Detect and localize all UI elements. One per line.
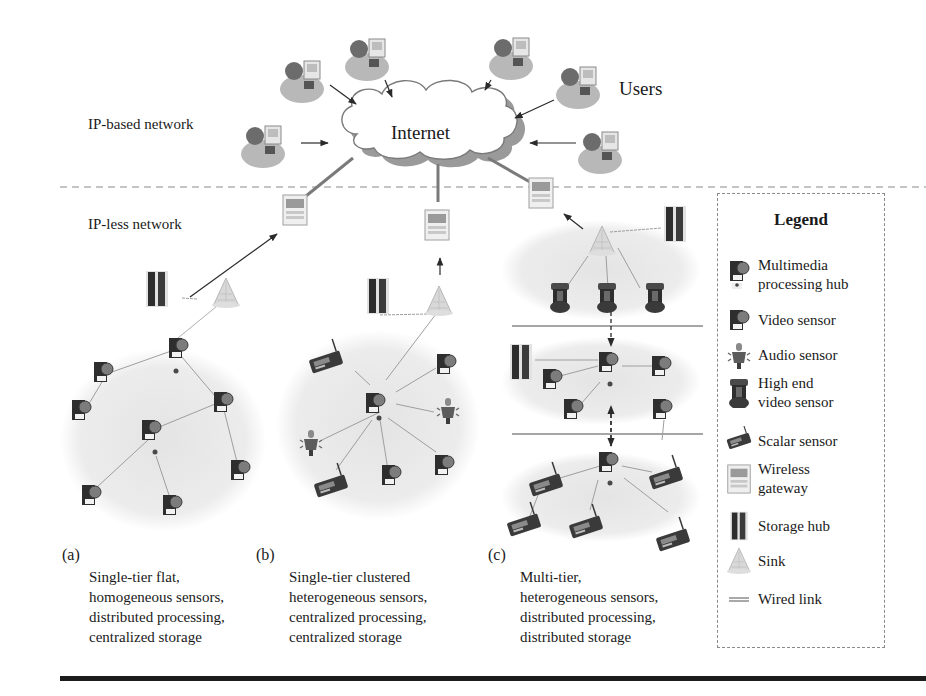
legend-item-wireless-gateway: Wireless gateway bbox=[726, 460, 882, 498]
storage-hub-icon bbox=[726, 511, 752, 541]
user-icon bbox=[489, 38, 533, 80]
wireless-gateway-b bbox=[425, 210, 449, 240]
ip-based-network-label: IP-based network bbox=[88, 116, 193, 133]
scalar-sensor-icon bbox=[726, 426, 752, 456]
legend-label: Audio sensor bbox=[758, 346, 838, 365]
user-icon bbox=[280, 61, 324, 103]
user-icon bbox=[556, 67, 600, 109]
legend-item-wired-link: Wired link bbox=[726, 584, 882, 614]
legend-item-high-end-video-sensor: High end video sensor bbox=[726, 374, 882, 412]
caption-a: Single-tier flat, homogeneous sensors, d… bbox=[89, 567, 225, 647]
wired-link-icon bbox=[726, 584, 752, 614]
legend-item-audio-sensor: Audio sensor bbox=[726, 340, 882, 370]
user-icon bbox=[345, 39, 389, 81]
user-icon bbox=[241, 126, 285, 168]
high-end-video-sensor-icon bbox=[726, 378, 752, 408]
legend-label: Storage hub bbox=[758, 517, 830, 536]
legend-item-storage-hub: Storage hub bbox=[726, 511, 882, 541]
video-sensor-icon bbox=[726, 305, 752, 335]
ip-less-network-label: IP-less network bbox=[88, 216, 182, 233]
legend-item-multimedia-hub: Multimedia processing hub bbox=[726, 256, 882, 294]
multimedia-hub-icon bbox=[726, 260, 752, 290]
caption-letter-b: (b) bbox=[256, 546, 275, 564]
legend-item-video-sensor: Video sensor bbox=[726, 305, 882, 335]
legend-item-scalar-sensor: Scalar sensor bbox=[726, 426, 882, 456]
legend: Legend Multimedia processing hub Video s… bbox=[717, 193, 885, 648]
cluster-a bbox=[60, 234, 277, 532]
wireless-gateway-c bbox=[529, 178, 553, 208]
legend-label: Video sensor bbox=[758, 311, 836, 330]
legend-label: Wired link bbox=[758, 590, 822, 609]
caption-letter-c: (c) bbox=[488, 546, 506, 564]
cluster-c bbox=[501, 206, 703, 552]
wireless-gateway-icon bbox=[726, 464, 752, 494]
legend-label: Wireless gateway bbox=[758, 460, 810, 498]
legend-label: Multimedia processing hub bbox=[758, 256, 848, 294]
caption-b: Single-tier clustered heterogeneous sens… bbox=[289, 567, 427, 647]
users-label: Users bbox=[619, 78, 662, 100]
cluster-b bbox=[276, 258, 480, 520]
legend-title: Legend bbox=[718, 210, 884, 230]
user-icon bbox=[578, 132, 622, 174]
legend-label: Scalar sensor bbox=[758, 432, 838, 451]
caption-c: Multi-tier, heterogeneous sensors, distr… bbox=[520, 567, 658, 647]
legend-label: Sink bbox=[758, 552, 786, 571]
internet-label: Internet bbox=[391, 122, 450, 144]
sink-icon bbox=[726, 546, 752, 576]
wireless-gateway-a bbox=[283, 195, 307, 225]
legend-label: High end video sensor bbox=[758, 374, 833, 412]
caption-letter-a: (a) bbox=[62, 546, 80, 564]
audio-sensor-icon bbox=[726, 340, 752, 370]
legend-item-sink: Sink bbox=[726, 546, 882, 576]
bottom-rule bbox=[60, 676, 926, 681]
